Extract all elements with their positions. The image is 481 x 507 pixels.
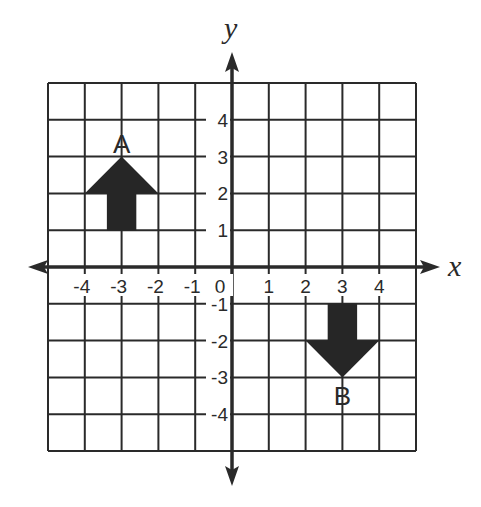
point-label-a: A <box>113 129 131 159</box>
arrow-head <box>306 341 380 378</box>
arrow-head <box>85 157 159 194</box>
y-axis-label: y <box>221 11 238 44</box>
x-tick-label: -3 <box>110 276 127 297</box>
y-tick-label: 3 <box>217 147 228 168</box>
x-tick-label: 1 <box>264 276 275 297</box>
y-tick-label: -2 <box>211 331 228 352</box>
arrow-stem <box>107 193 136 230</box>
y-tick-label: -1 <box>211 294 228 315</box>
y-tick-label: -3 <box>211 367 228 388</box>
y-tick-label: 1 <box>217 220 228 241</box>
y-tick-label: 2 <box>217 183 228 204</box>
arrow-shape-b: B <box>306 304 380 412</box>
x-tick-label: -1 <box>184 276 201 297</box>
x-tick-label: 3 <box>337 276 348 297</box>
x-tick-label: 2 <box>300 276 311 297</box>
x-tick-label: -2 <box>147 276 164 297</box>
coordinate-plane: AB xy -4-3-2-1012344321-1-2-3-4 <box>0 0 481 507</box>
point-label-b: B <box>334 381 351 411</box>
arrow-shape-a: A <box>85 129 159 231</box>
y-tick-label: 4 <box>217 110 228 131</box>
x-tick-label: -4 <box>73 276 90 297</box>
arrow-stem <box>328 304 357 341</box>
x-tick-label: 4 <box>374 276 385 297</box>
y-tick-label: -4 <box>211 404 228 425</box>
x-axis-label: x <box>447 249 462 282</box>
